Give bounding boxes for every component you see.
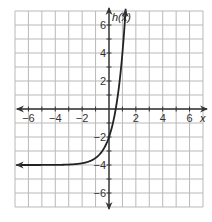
y-tick-label: −4 [93,159,106,171]
y-tick-label: 2 [100,75,106,87]
y-tick-label: 4 [100,47,106,59]
y-tick-label: 6 [100,19,106,31]
y-axis-label: h(x) [112,11,131,23]
function-graph: −6−4−2246642−2−4−6 x h(x) [0,0,212,222]
x-tick-label: 6 [187,112,193,124]
x-axis-label: x [199,112,206,124]
y-tick-label: −6 [93,187,106,199]
x-tick-label: −6 [22,112,35,124]
x-tick-label: 4 [160,112,166,124]
x-tick-label: 2 [133,112,139,124]
x-tick-label: −4 [49,112,62,124]
y-tick-label: −2 [93,131,106,143]
x-tick-label: −2 [76,112,89,124]
